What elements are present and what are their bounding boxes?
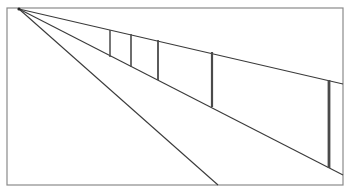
vanishing-point xyxy=(17,7,20,10)
perspective-diagram xyxy=(0,0,348,193)
bottom-rail xyxy=(19,9,343,175)
ground-line xyxy=(19,9,218,185)
frame-border xyxy=(7,8,343,185)
top-rail xyxy=(19,9,343,84)
diagram-canvas xyxy=(0,0,348,193)
